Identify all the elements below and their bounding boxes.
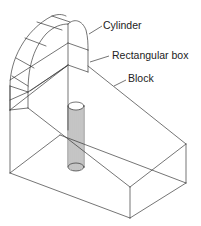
- pin-cylinder-shape: [68, 102, 84, 171]
- cylinder-shape: [10, 15, 88, 111]
- label-block: Block: [128, 73, 154, 84]
- label-cylinder: Cylinder: [103, 20, 142, 31]
- diagram-canvas: Cylinder Rectangular box Block: [0, 0, 201, 226]
- leader-block: [114, 80, 126, 86]
- label-rectangular-box: Rectangular box: [112, 50, 188, 61]
- rectangular-box-shape: [10, 24, 88, 130]
- leader-cylinder: [89, 26, 102, 34]
- wireframe-drawing: [0, 0, 201, 226]
- leader-rectangular-box: [90, 56, 109, 62]
- block-shape: [10, 66, 186, 218]
